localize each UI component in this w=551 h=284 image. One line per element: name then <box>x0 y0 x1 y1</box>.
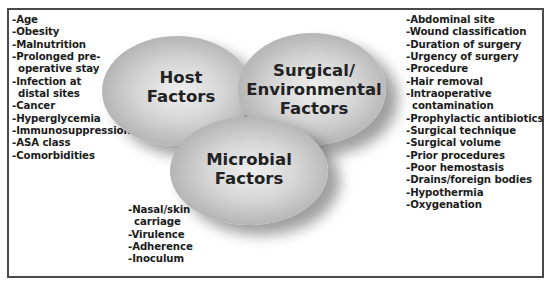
label-line: Host <box>147 68 215 87</box>
list-item: -Poor hemostasis <box>406 162 544 174</box>
list-item: -Abdominal site <box>406 14 544 26</box>
list-item: -Immunosuppression <box>12 125 131 137</box>
list-item: -Comorbidities <box>12 150 131 162</box>
list-item: -Surgical technique <box>406 125 544 137</box>
list-item: -Nasal/skin <box>128 204 193 216</box>
label-line: Surgical/ <box>246 61 381 80</box>
list-item: -Drains/foreign bodies <box>406 174 544 186</box>
list-item: -Intraoperative <box>406 88 544 100</box>
label-line: Microbial <box>206 150 292 169</box>
label-line: Factors <box>246 99 381 118</box>
host-factors-label: Host Factors <box>147 68 215 106</box>
list-item: -Adherence <box>128 241 193 253</box>
list-item: -Surgical volume <box>406 137 544 149</box>
list-item: -Oxygenation <box>406 199 544 211</box>
surgical-environmental-factors-label: Surgical/ Environmental Factors <box>246 61 381 118</box>
surgical-factors-list: -Abdominal site -Wound classification -D… <box>406 14 544 212</box>
list-item: -Procedure <box>406 63 544 75</box>
list-item: -Obesity <box>12 26 131 38</box>
list-item: -Malnutrition <box>12 39 131 51</box>
label-line: Environmental <box>246 80 381 99</box>
list-item: -Hair removal <box>406 76 544 88</box>
list-item: -Wound classification <box>406 26 544 38</box>
list-item: -Age <box>12 14 131 26</box>
list-item-continuation: contamination <box>406 100 544 112</box>
microbial-factors-label: Microbial Factors <box>206 150 292 188</box>
microbial-factors-list: -Nasal/skin carriage -Virulence -Adheren… <box>128 204 193 266</box>
label-line: Factors <box>206 169 292 188</box>
list-item: -Hypothermia <box>406 187 544 199</box>
list-item: -Urgency of surgery <box>406 51 544 63</box>
list-item: -Duration of surgery <box>406 39 544 51</box>
list-item: -Inoculum <box>128 253 193 265</box>
list-item: -Prior procedures <box>406 150 544 162</box>
list-item: -Prophylactic antibiotics <box>406 113 544 125</box>
label-line: Factors <box>147 87 215 106</box>
microbial-factors-ellipse: Microbial Factors <box>170 117 328 225</box>
list-item-continuation: carriage <box>128 216 193 228</box>
list-item: -Virulence <box>128 229 193 241</box>
list-item: -ASA class <box>12 137 131 149</box>
